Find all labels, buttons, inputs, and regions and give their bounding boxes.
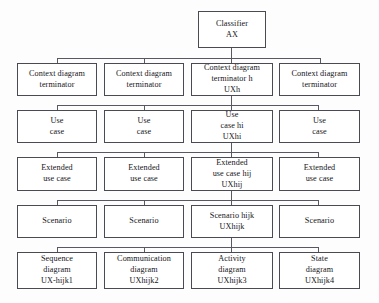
node-use-case-2: Use case [104, 110, 184, 143]
connector-bus-row6 [57, 247, 319, 248]
node-line: Context diagram [116, 69, 172, 80]
node-line: UXhijk [219, 222, 244, 233]
node-extended-use-case-hij: Extended use case hij UXhij [191, 157, 273, 191]
connector-stem-row5-col3 [231, 238, 232, 247]
node-line: Use [138, 116, 151, 127]
node-scenario-1: Scenario [17, 205, 97, 238]
node-line: Scenario [305, 216, 334, 227]
node-line: terminator [40, 80, 75, 91]
node-line: Use [226, 110, 239, 121]
connector-bus-row4 [57, 152, 319, 153]
node-line: Activity [218, 254, 245, 265]
node-line: Scenario [42, 216, 71, 227]
node-sequence-diagram: Sequence diagram UX-hijk1 [17, 252, 97, 289]
node-extended-use-case-4: Extended use case [279, 157, 360, 191]
node-line: Scenario [129, 216, 158, 227]
node-line: Sequence [41, 254, 73, 265]
node-line: terminator [302, 80, 337, 91]
node-extended-use-case-2: Extended use case [104, 157, 184, 191]
node-line: UXhi [223, 132, 242, 143]
node-use-case-1: Use case [17, 110, 97, 143]
node-line: Context diagram [204, 63, 260, 74]
node-line: terminator [127, 80, 162, 91]
connector-stem-row2-col3 [231, 96, 232, 105]
node-context-diagram-terminator-4: Context diagram terminator [279, 63, 360, 96]
node-line: Classifier [216, 19, 248, 30]
node-line: use case hij [213, 169, 252, 180]
node-context-diagram-terminator-h: Context diagram terminator h UXh [191, 63, 273, 96]
classifier-hierarchy-diagram: Classifier AX Context diagram terminator… [0, 0, 379, 303]
node-line: UXhijk2 [129, 276, 158, 287]
node-line: UXhijk3 [217, 276, 246, 287]
node-line: diagram [218, 265, 245, 276]
node-line: Use [51, 116, 64, 127]
node-line: Extended [41, 163, 73, 174]
connector-stem-row4-col3 [231, 191, 232, 200]
node-line: Communication [117, 254, 171, 265]
node-line: terminator h [211, 74, 252, 85]
node-scenario-hijk: Scenario hijk UXhijk [191, 205, 273, 238]
node-line: case [137, 127, 151, 138]
node-scenario-2: Scenario [104, 205, 184, 238]
node-line: diagram [43, 265, 70, 276]
node-line: UXhij [222, 180, 243, 191]
node-line: use case [43, 174, 71, 185]
node-extended-use-case-1: Extended use case [17, 157, 97, 191]
node-line: diagram [130, 265, 157, 276]
node-communication-diagram: Communication diagram UXhijk2 [104, 252, 184, 289]
node-line: diagram [306, 265, 333, 276]
node-line: Context diagram [29, 69, 85, 80]
node-line: Extended [216, 158, 248, 169]
node-line: UX-hijk1 [41, 276, 73, 287]
node-line: UXh [224, 85, 240, 96]
node-classifier-ax: Classifier AX [198, 11, 266, 48]
node-line: use case [130, 174, 158, 185]
connector-stem-row3-col3 [231, 143, 232, 152]
node-line: State [311, 254, 328, 265]
node-context-diagram-terminator-1: Context diagram terminator [17, 63, 97, 96]
node-use-case-hi: Use case hi UXhi [191, 110, 273, 143]
node-line: use case [306, 174, 334, 185]
node-state-diagram: State diagram UXhijk4 [279, 252, 360, 289]
node-activity-diagram: Activity diagram UXhijk3 [191, 252, 273, 289]
connector-root-stem [231, 48, 232, 58]
node-line: Extended [304, 163, 336, 174]
connector-bus-row5 [57, 200, 319, 201]
node-line: case [50, 127, 64, 138]
node-use-case-4: Use case [279, 110, 360, 143]
node-line: Use [313, 116, 326, 127]
node-context-diagram-terminator-2: Context diagram terminator [104, 63, 184, 96]
node-line: Scenario hijk [210, 211, 254, 222]
node-line: case hi [220, 121, 243, 132]
node-line: Extended [128, 163, 160, 174]
node-line: AX [226, 30, 238, 41]
connector-bus-row2 [57, 58, 321, 59]
node-line: case [312, 127, 326, 138]
connector-bus-row3 [57, 105, 319, 106]
node-line: UXhijk4 [305, 276, 334, 287]
node-line: Context diagram [292, 69, 348, 80]
node-scenario-4: Scenario [279, 205, 360, 238]
